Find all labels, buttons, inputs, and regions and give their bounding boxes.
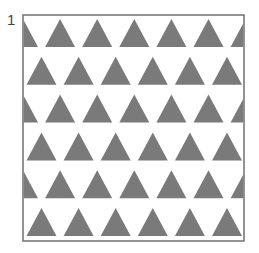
triangle-shape: [194, 170, 224, 198]
triangle-shape: [156, 95, 186, 123]
triangle-shape: [138, 208, 168, 236]
triangle-shape: [175, 132, 205, 160]
triangle-shape: [64, 132, 94, 160]
triangle-shape: [119, 170, 149, 198]
triangle-shape: [212, 132, 242, 160]
triangle-shape: [82, 170, 112, 198]
triangle-shape: [27, 57, 57, 85]
triangle-shape: [156, 19, 186, 47]
triangle-shape: [212, 208, 242, 236]
triangle-shape: [82, 19, 112, 47]
triangle-shape: [212, 57, 242, 85]
panel-border: [23, 15, 244, 241]
triangle-shape: [156, 170, 186, 198]
triangle-shape: [138, 57, 168, 85]
triangle-shape: [27, 208, 57, 236]
triangle-shape: [82, 95, 112, 123]
triangle-shape: [175, 57, 205, 85]
triangle-shape: [27, 132, 57, 160]
triangle-shape: [45, 170, 75, 198]
triangle-shape: [64, 208, 94, 236]
triangle-shape: [45, 19, 75, 47]
triangle-shape: [119, 19, 149, 47]
triangle-shape: [138, 132, 168, 160]
triangle-grid: [8, 19, 259, 236]
triangle-shape: [175, 208, 205, 236]
triangle-shape: [231, 19, 259, 47]
triangle-shape: [101, 132, 131, 160]
triangle-pattern-panel: [0, 0, 259, 253]
triangle-shape: [194, 95, 224, 123]
triangle-shape: [101, 208, 131, 236]
triangle-shape: [231, 95, 259, 123]
triangle-shape: [231, 170, 259, 198]
triangle-shape: [101, 57, 131, 85]
triangle-shape: [194, 19, 224, 47]
triangle-shape: [45, 95, 75, 123]
triangle-shape: [64, 57, 94, 85]
triangle-shape: [119, 95, 149, 123]
